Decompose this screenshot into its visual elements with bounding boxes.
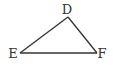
diagram-canvas: D E F	[0, 0, 113, 70]
edge-d-e	[20, 17, 68, 53]
edge-f-d	[68, 17, 97, 53]
vertex-label-f: F	[97, 46, 106, 61]
triangle-diagram: D E F	[0, 0, 113, 70]
vertex-label-e: E	[8, 46, 18, 61]
vertex-label-d: D	[62, 2, 72, 17]
